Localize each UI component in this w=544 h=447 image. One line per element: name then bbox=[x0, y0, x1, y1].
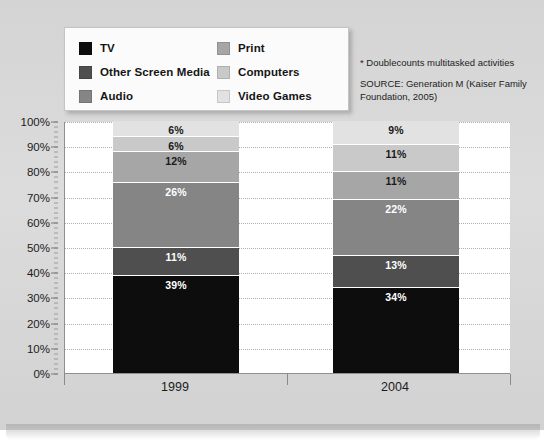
y-axis-minor-tick bbox=[54, 308, 58, 309]
x-axis-label-2004: 2004 bbox=[381, 380, 409, 394]
legend-item-print: Print bbox=[217, 37, 312, 59]
legend-swatch-other-screen-media bbox=[79, 66, 92, 79]
y-axis-label: 0% bbox=[33, 368, 50, 380]
y-axis-label: 60% bbox=[27, 217, 50, 229]
bar-segment-value: 6% bbox=[113, 140, 239, 151]
y-axis-label: 90% bbox=[27, 141, 50, 153]
source-line-2: Foundation, 2005) bbox=[360, 90, 540, 104]
y-axis-label: 70% bbox=[27, 192, 50, 204]
y-axis-minor-tick bbox=[54, 343, 58, 344]
y-axis: 0%10%20%30%40%50%60%70%80%90%100% bbox=[0, 122, 58, 374]
y-axis-minor-tick bbox=[54, 132, 58, 133]
y-axis-minor-tick bbox=[54, 232, 58, 233]
x-axis-separator bbox=[510, 374, 511, 385]
y-axis-tick bbox=[51, 348, 58, 349]
legend-item-other-screen-media: Other Screen Media bbox=[79, 61, 210, 83]
y-axis-tick bbox=[51, 147, 58, 148]
y-axis-minor-tick bbox=[54, 202, 58, 203]
y-axis-minor-tick bbox=[54, 253, 58, 254]
y-axis-tick bbox=[51, 323, 58, 324]
legend-label-computers: Computers bbox=[238, 66, 300, 78]
y-axis-minor-tick bbox=[54, 152, 58, 153]
footnote-text: * Doublecounts multitasked activities bbox=[360, 56, 540, 70]
bar-1999[interactable]: 6%6%12%26%11%39% bbox=[113, 121, 239, 373]
y-axis-minor-tick bbox=[54, 303, 58, 304]
y-axis-minor-tick bbox=[54, 142, 58, 143]
x-axis-label-1999: 1999 bbox=[161, 380, 189, 394]
legend-item-computers: Computers bbox=[217, 61, 312, 83]
bar-segment-value: 11% bbox=[333, 148, 459, 160]
bar-segment[interactable]: 11% bbox=[113, 247, 239, 275]
bar-2004[interactable]: 9%11%11%22%13%34% bbox=[333, 121, 459, 373]
bar-segment[interactable]: 13% bbox=[333, 255, 459, 288]
y-axis-tick bbox=[51, 122, 58, 123]
chart-legend: TV Other Screen Media Audio Print Comput… bbox=[64, 27, 349, 111]
y-axis-minor-tick bbox=[54, 182, 58, 183]
y-axis-minor-tick bbox=[54, 207, 58, 208]
y-axis-minor-tick bbox=[54, 313, 58, 314]
source-block: SOURCE: Generation M (Kaiser Family Foun… bbox=[360, 77, 540, 104]
bar-segment[interactable]: 11% bbox=[333, 171, 459, 199]
bar-segment-value: 13% bbox=[333, 259, 459, 271]
bar-segment[interactable]: 11% bbox=[333, 144, 459, 172]
y-axis-minor-tick bbox=[54, 268, 58, 269]
y-axis-minor-tick bbox=[54, 288, 58, 289]
y-axis-tick bbox=[51, 298, 58, 299]
x-axis-separator bbox=[64, 374, 65, 385]
y-axis-minor-tick bbox=[54, 212, 58, 213]
y-axis-minor-tick bbox=[54, 127, 58, 128]
legend-swatch-tv bbox=[79, 42, 92, 55]
bar-segment[interactable]: 39% bbox=[113, 275, 239, 373]
y-axis-minor-tick bbox=[54, 338, 58, 339]
y-axis-minor-tick bbox=[54, 333, 58, 334]
y-axis-minor-tick bbox=[54, 318, 58, 319]
y-axis-minor-tick bbox=[54, 192, 58, 193]
y-axis-minor-tick bbox=[54, 328, 58, 329]
y-axis-minor-tick bbox=[54, 283, 58, 284]
bar-segment[interactable]: 26% bbox=[113, 182, 239, 248]
y-axis-label: 10% bbox=[27, 343, 50, 355]
bar-segment[interactable]: 12% bbox=[113, 151, 239, 181]
plot-canvas: 6%6%12%26%11%39%9%11%11%22%13%34% bbox=[64, 122, 510, 374]
bar-segment[interactable]: 9% bbox=[333, 121, 459, 144]
y-axis-tick bbox=[51, 374, 58, 375]
y-axis-minor-tick bbox=[54, 278, 58, 279]
y-axis-label: 50% bbox=[27, 242, 50, 254]
bar-segment-value: 12% bbox=[113, 155, 239, 167]
y-axis-minor-tick bbox=[54, 368, 58, 369]
chart-card: TV Other Screen Media Audio Print Comput… bbox=[0, 0, 544, 430]
y-axis-minor-tick bbox=[54, 258, 58, 259]
legend-swatch-computers bbox=[217, 66, 230, 79]
y-axis-minor-tick bbox=[54, 293, 58, 294]
legend-label-print: Print bbox=[238, 42, 265, 54]
bar-segment-value: 26% bbox=[113, 186, 239, 198]
y-axis-minor-tick bbox=[54, 157, 58, 158]
y-axis-minor-tick bbox=[54, 177, 58, 178]
legend-swatch-audio bbox=[79, 90, 92, 103]
legend-item-tv: TV bbox=[79, 37, 210, 59]
y-axis-label: 30% bbox=[27, 292, 50, 304]
y-axis-label: 20% bbox=[27, 318, 50, 330]
y-axis-minor-tick bbox=[54, 242, 58, 243]
legend-item-audio: Audio bbox=[79, 85, 210, 107]
y-axis-minor-tick bbox=[54, 263, 58, 264]
bar-segment[interactable]: 34% bbox=[333, 287, 459, 373]
bar-segment-value: 22% bbox=[333, 203, 459, 215]
y-axis-tick bbox=[51, 248, 58, 249]
plot-area: 6%6%12%26%11%39%9%11%11%22%13%34% bbox=[64, 122, 510, 374]
bar-segment-value: 6% bbox=[113, 124, 239, 136]
bar-segment-value: 39% bbox=[113, 279, 239, 291]
y-axis-tick bbox=[51, 197, 58, 198]
y-axis-minor-tick bbox=[54, 162, 58, 163]
x-axis: 19992004 bbox=[64, 374, 510, 404]
y-axis-minor-tick bbox=[54, 227, 58, 228]
y-axis-minor-tick bbox=[54, 353, 58, 354]
legend-column-left: TV Other Screen Media Audio bbox=[79, 37, 210, 109]
bar-segment-value: 9% bbox=[333, 124, 459, 136]
bar-segment[interactable]: 6% bbox=[113, 121, 239, 136]
y-axis-minor-tick bbox=[54, 363, 58, 364]
bar-segment-value: 34% bbox=[333, 291, 459, 303]
bar-segment[interactable]: 6% bbox=[113, 136, 239, 151]
bar-segment[interactable]: 22% bbox=[333, 199, 459, 254]
legend-column-right: Print Computers Video Games bbox=[217, 37, 312, 109]
